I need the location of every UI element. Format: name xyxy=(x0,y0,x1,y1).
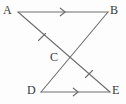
tick-mark-AC xyxy=(39,34,46,41)
vertex-label-a: A xyxy=(3,4,12,16)
segment-AE xyxy=(18,12,110,92)
figure-canvas xyxy=(0,0,126,104)
vertex-label-d: D xyxy=(27,84,36,96)
geometry-figure: A B C D E xyxy=(0,0,126,104)
vertex-label-e: E xyxy=(112,84,119,96)
vertex-label-b: B xyxy=(110,4,118,16)
vertex-label-c: C xyxy=(50,51,58,63)
